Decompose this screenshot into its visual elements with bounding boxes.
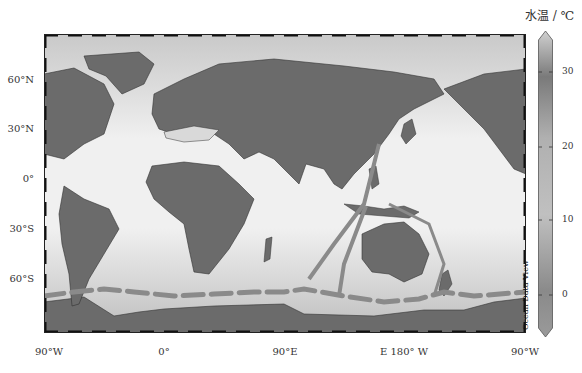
lon-label-90w-left: 90°W [35,346,63,357]
map-panel [44,34,526,333]
colorbar-tick-10: 10 [562,214,573,224]
lat-label-0: 0° [23,173,34,184]
lat-label-60n: 60°N [8,74,34,85]
lon-label-180: E 180° W [380,346,428,357]
map-frame [44,34,526,333]
colorbar-tick-0: 0 [562,289,568,299]
lon-label-0: 0° [158,346,169,357]
lat-label-60s: 60°S [9,273,34,284]
lat-label-30s: 30°S [9,223,34,234]
lon-label-90w-right: 90°W [511,346,539,357]
colorbar-title: 水温 / ℃ [525,6,574,23]
colorbar-tick-30: 30 [562,66,573,76]
colorbar [538,30,553,338]
colorbar-tick-20: 20 [562,141,573,151]
lat-label-30n: 30°N [8,123,34,134]
odv-watermark: Ocean Data View [521,260,530,330]
lon-label-90e: 90°E [272,346,297,357]
